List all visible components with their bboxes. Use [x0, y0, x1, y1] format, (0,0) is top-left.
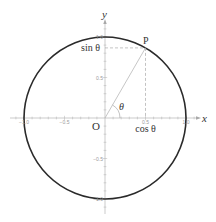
x-tick-label: −0.5 [60, 119, 70, 125]
y-tick-label: −1.0 [93, 196, 103, 202]
cos-theta-label: cos θ [135, 123, 156, 134]
x-axis-label: x [201, 112, 207, 124]
unit-circle-diagram: −1.0 −0.5 0.5 1.0 1.0 0.5 −0.5 −1.0 x y … [0, 0, 216, 222]
x-tick-label: 1.0 [183, 119, 190, 125]
x-tick-label: −1.0 [19, 119, 29, 125]
radius-line-OP [105, 48, 146, 118]
origin-label: O [92, 120, 100, 132]
y-tick-label: −0.5 [93, 156, 103, 162]
y-axis [103, 19, 107, 214]
x-axis-arrow-icon [196, 116, 201, 119]
point-P-label: P [143, 35, 149, 46]
y-axis-label: y [101, 8, 107, 20]
y-tick-label: 1.0 [96, 34, 103, 40]
y-tick-label: 0.5 [96, 75, 103, 81]
angle-theta-label: θ [119, 101, 124, 112]
sin-theta-label: sin θ [81, 42, 100, 53]
